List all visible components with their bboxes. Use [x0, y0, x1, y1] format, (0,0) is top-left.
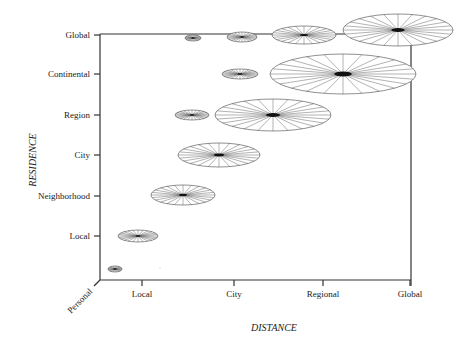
spoked-ellipse-marker	[185, 35, 201, 41]
y-ticks: GlobalContinentalRegionCityNeighborhoodL…	[38, 30, 100, 241]
spoked-ellipse-marker	[215, 99, 331, 131]
y-tick-label: Continental	[48, 69, 90, 79]
origin-label: Personal	[65, 286, 94, 315]
spoked-ellipse-marker	[270, 54, 416, 94]
spoked-ellipse-marker	[178, 143, 260, 167]
y-tick-label: City	[74, 150, 90, 160]
data-points	[108, 14, 453, 272]
y-tick-label: Global	[66, 30, 91, 40]
speck	[159, 267, 160, 268]
x-tick-label: Global	[398, 289, 423, 299]
spoked-ellipse-marker	[118, 230, 158, 242]
x-axis-title: DISTANCE	[250, 322, 297, 333]
x-tick-label: Local	[132, 289, 153, 299]
y-tick-label: Neighborhood	[38, 191, 90, 201]
x-tick-label: City	[226, 289, 242, 299]
x-ticks: LocalCityRegionalGlobal	[132, 280, 423, 299]
spoked-ellipse-marker	[151, 185, 215, 205]
spoked-ellipse-marker	[108, 266, 122, 272]
y-tick-label: Region	[64, 110, 90, 120]
spoked-ellipse-marker	[227, 32, 257, 42]
residence-distance-chart: GlobalContinentalRegionCityNeighborhoodL…	[0, 0, 469, 348]
spoked-ellipse-marker	[343, 14, 453, 46]
spoked-ellipse-marker	[222, 69, 258, 79]
origin-tick	[94, 280, 100, 286]
y-axis-title: RESIDENCE	[27, 133, 38, 187]
spoked-ellipse-marker	[272, 26, 336, 44]
spoked-ellipse-marker	[175, 110, 209, 120]
y-tick-label: Local	[70, 231, 91, 241]
x-tick-label: Regional	[307, 289, 340, 299]
